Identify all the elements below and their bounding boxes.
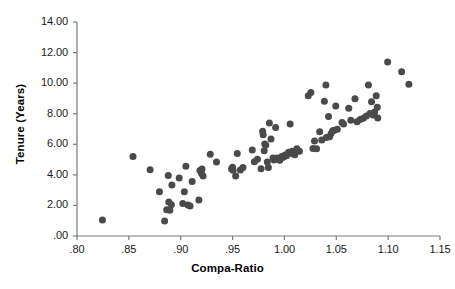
- y-axis-title: Tenure (Years): [14, 44, 26, 204]
- scatter-point: [130, 153, 137, 160]
- scatter-point: [272, 124, 279, 131]
- scatter-point: [181, 188, 188, 195]
- scatter-point: [316, 128, 323, 135]
- scatter-point: [296, 148, 303, 155]
- scatter-point: [176, 174, 183, 181]
- scatter-point: [161, 218, 168, 225]
- scatter-point: [345, 105, 352, 112]
- scatter-point: [200, 173, 207, 180]
- scatter-point: [187, 202, 194, 209]
- scatter-point: [165, 172, 172, 179]
- scatter-point: [260, 131, 267, 138]
- scatter-plot-figure: .002.004.006.008.0010.0012.0014.00 .80.8…: [0, 0, 455, 289]
- scatter-points-group: [99, 59, 412, 225]
- scatter-point: [347, 117, 354, 124]
- scatter-point: [258, 165, 265, 172]
- scatter-point: [239, 164, 246, 171]
- scatter-point: [368, 98, 375, 105]
- axis-lines: [77, 22, 440, 236]
- scatter-point: [322, 81, 329, 88]
- scatter-point: [321, 98, 328, 105]
- x-axis-tick-label: 1.05: [312, 243, 360, 255]
- scatter-point: [351, 95, 358, 102]
- scatter-point: [182, 163, 189, 170]
- scatter-point: [365, 81, 372, 88]
- scatter-point: [234, 150, 241, 157]
- scatter-point: [249, 147, 256, 154]
- x-axis-tick-label: 1.15: [416, 243, 455, 255]
- scatter-point: [147, 166, 154, 173]
- scatter-point: [267, 135, 274, 142]
- x-axis-tick-label: 1.00: [260, 243, 308, 255]
- scatter-point: [325, 113, 332, 120]
- scatter-point: [374, 104, 381, 111]
- y-axis-tick-label: .00: [10, 229, 68, 241]
- x-axis-tick-label: .80: [53, 243, 101, 255]
- scatter-point: [195, 197, 202, 204]
- scatter-point: [311, 137, 318, 144]
- scatter-point: [168, 181, 175, 188]
- scatter-point: [156, 188, 163, 195]
- scatter-point: [207, 151, 214, 158]
- scatter-point: [232, 173, 239, 180]
- y-axis-tick-label: 14.00: [10, 15, 68, 27]
- scatter-point: [373, 92, 380, 99]
- scatter-point: [334, 126, 341, 133]
- scatter-point: [168, 201, 175, 208]
- scatter-point: [213, 159, 220, 166]
- x-axis-ticks: [77, 236, 440, 240]
- scatter-point: [265, 164, 272, 171]
- x-axis-tick-label: .90: [157, 243, 205, 255]
- scatter-point: [189, 178, 196, 185]
- scatter-point: [262, 142, 269, 149]
- x-axis-title: Compa-Ratio: [0, 262, 455, 274]
- scatter-point: [287, 121, 294, 128]
- x-axis-tick-label: 1.10: [364, 243, 412, 255]
- scatter-point: [340, 121, 347, 128]
- x-axis-tick-label: .95: [209, 243, 257, 255]
- scatter-point: [254, 156, 261, 163]
- scatter-point: [99, 216, 106, 223]
- scatter-point: [405, 81, 412, 88]
- scatter-point: [384, 59, 391, 66]
- scatter-point: [313, 145, 320, 152]
- scatter-point: [307, 89, 314, 96]
- scatter-point: [332, 103, 339, 110]
- scatter-point: [374, 114, 381, 121]
- scatter-point: [398, 68, 405, 75]
- scatter-point: [198, 166, 205, 173]
- x-axis-tick-label: .85: [105, 243, 153, 255]
- scatter-point: [266, 119, 273, 126]
